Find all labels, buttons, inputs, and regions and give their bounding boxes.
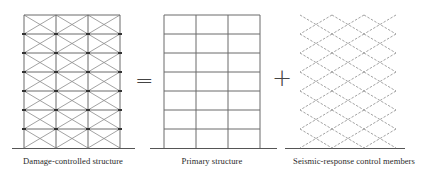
joint-node <box>118 90 122 92</box>
label-primary-structure: Primary structure <box>147 156 277 166</box>
joint-node <box>22 33 26 35</box>
joint-node <box>22 128 26 130</box>
joint-node <box>54 52 58 54</box>
joint-node <box>54 90 58 92</box>
structure-diagram <box>0 0 430 177</box>
joint-node <box>54 128 58 130</box>
joint-node <box>54 71 58 73</box>
joint-node <box>22 90 26 92</box>
joint-node <box>118 128 122 130</box>
joint-node <box>118 33 122 35</box>
joint-node <box>86 52 90 54</box>
joint-node <box>86 128 90 130</box>
joint-node <box>54 109 58 111</box>
plus-sign: + <box>272 66 292 90</box>
joint-node <box>86 33 90 35</box>
joint-node <box>22 109 26 111</box>
primary-structure-drawing <box>150 15 277 149</box>
joint-node <box>118 52 122 54</box>
joint-node <box>22 71 26 73</box>
label-damage-controlled-structure: Damage-controlled structure <box>8 156 138 166</box>
label-seismic-response-control-members: Seismic-response control members <box>279 156 429 166</box>
joint-node <box>86 90 90 92</box>
joint-node <box>22 52 26 54</box>
equals-sign: = <box>135 70 153 92</box>
joint-node <box>118 71 122 73</box>
damage-controlled-structure-drawing <box>12 15 135 149</box>
joint-node <box>118 109 122 111</box>
joint-node <box>54 33 58 35</box>
seismic-control-members-drawing <box>285 15 405 149</box>
joint-node <box>86 71 90 73</box>
joint-node <box>86 109 90 111</box>
